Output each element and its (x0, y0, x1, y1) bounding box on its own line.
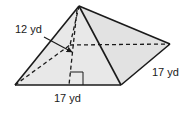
base-side-right-label: 17 yd (152, 66, 179, 78)
pyramid-diagram: 12 yd 17 yd 17 yd (0, 0, 189, 113)
slant-height-label: 12 yd (15, 23, 42, 35)
base-side-front-label: 17 yd (54, 92, 81, 104)
